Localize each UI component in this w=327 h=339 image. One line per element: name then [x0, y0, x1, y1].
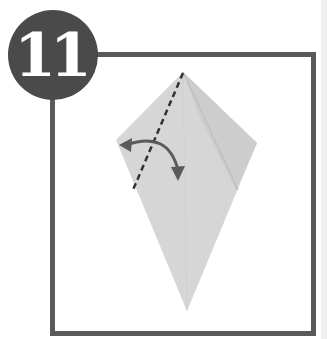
kite-shaped-paper — [116, 72, 257, 311]
step-number-badge: 11 — [8, 10, 98, 100]
step-number: 11 — [14, 25, 86, 85]
